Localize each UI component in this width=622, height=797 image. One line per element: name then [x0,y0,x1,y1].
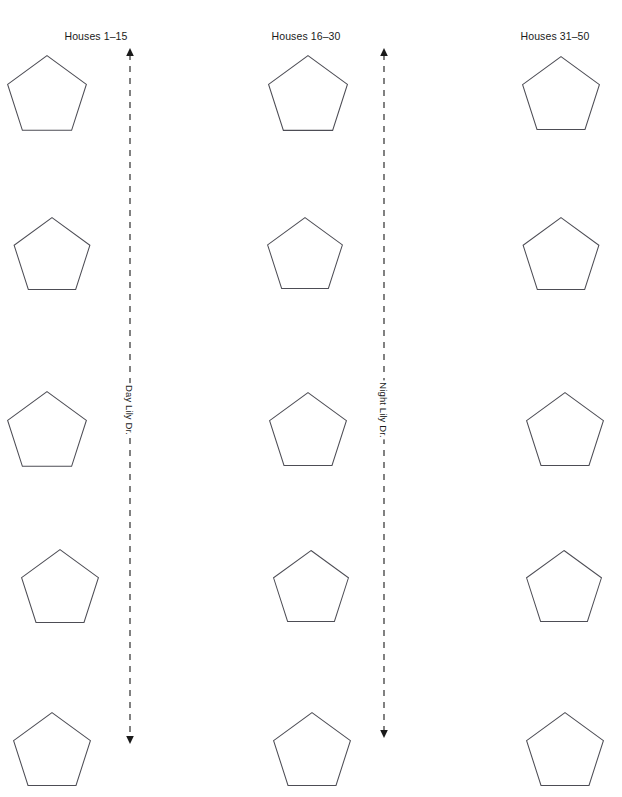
house-pentagon[interactable] [12,710,92,788]
house-pentagon[interactable] [20,548,100,624]
street-label-night-lily: Night Lily Dr. [377,380,390,439]
column-heading-houses-31-50: Houses 31–50 [489,30,621,42]
column-heading-houses-16-30: Houses 16–30 [240,30,372,42]
house-pentagon[interactable] [521,54,601,132]
house-pentagon[interactable] [525,548,603,624]
street-label-day-lily: Day Lily Dr. [123,383,136,437]
house-pentagon[interactable] [272,548,350,624]
house-pentagon[interactable] [521,216,601,291]
column-heading-houses-1-15: Houses 1–15 [30,30,162,42]
house-pentagon[interactable] [525,710,605,788]
house-pentagon[interactable] [272,710,352,788]
house-pentagon[interactable] [6,54,88,132]
house-pentagon[interactable] [12,216,92,291]
neighborhood-map: Houses 1–15 Houses 16–30 Houses 31–50 [0,0,622,797]
house-pentagon[interactable] [6,390,88,468]
house-pentagon[interactable] [525,390,605,468]
house-pentagon[interactable] [268,390,348,468]
house-pentagon[interactable] [266,216,344,290]
house-pentagon[interactable] [266,54,350,132]
